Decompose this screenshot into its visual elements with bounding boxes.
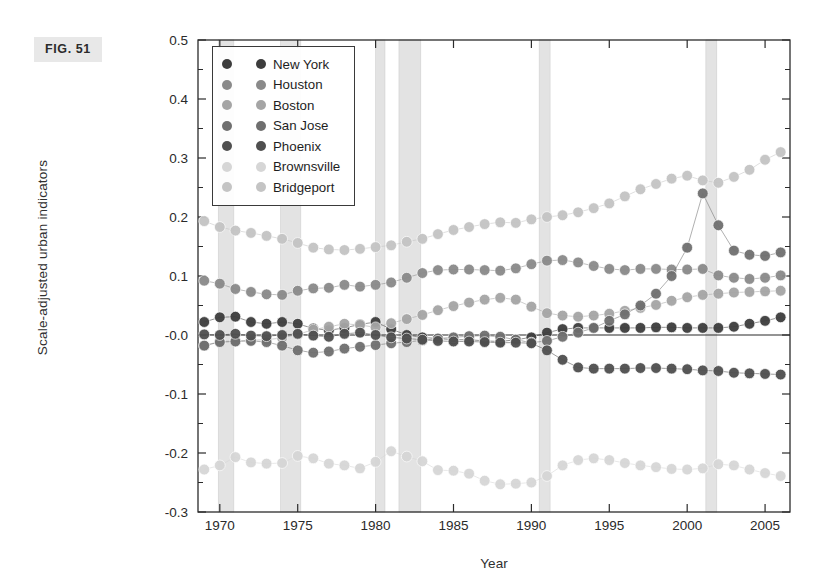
data-point	[651, 363, 662, 374]
data-point	[635, 184, 646, 195]
data-point	[744, 164, 755, 175]
data-point	[401, 314, 412, 325]
data-point	[651, 462, 662, 473]
legend-item-new-york[interactable]: New York	[222, 54, 340, 75]
y-axis-title: Scale-adjusted urban indicators	[35, 98, 50, 418]
data-point	[713, 220, 724, 231]
data-point	[775, 147, 786, 158]
data-point	[760, 315, 771, 326]
data-point	[775, 247, 786, 258]
data-point	[401, 236, 412, 247]
legend-item-bridgeport[interactable]: Bridgeport	[222, 177, 340, 198]
data-point	[729, 321, 740, 332]
data-point	[464, 297, 475, 308]
data-point	[619, 191, 630, 202]
data-point	[214, 460, 225, 471]
data-point	[246, 287, 257, 298]
y-axis-tick-label: -0.1	[142, 387, 188, 402]
legend-item-boston[interactable]: Boston	[222, 95, 340, 116]
data-point	[744, 274, 755, 285]
data-point	[214, 312, 225, 323]
data-point	[542, 255, 553, 266]
x-axis-tick-label: 1970	[190, 518, 250, 533]
x-axis-tick-label: 1995	[579, 518, 639, 533]
data-point	[199, 275, 210, 286]
data-point	[682, 242, 693, 253]
data-point	[464, 222, 475, 233]
legend-item-label: Brownsville	[273, 159, 340, 174]
data-point	[355, 341, 366, 352]
data-point	[573, 257, 584, 268]
data-point	[339, 460, 350, 471]
data-point	[199, 329, 210, 340]
data-point	[495, 217, 506, 228]
y-axis-tick-label: 0.2	[142, 210, 188, 225]
data-point	[573, 207, 584, 218]
data-point	[214, 278, 225, 289]
data-point	[386, 277, 397, 288]
data-point	[261, 230, 272, 241]
legend-marker-icon	[256, 59, 266, 69]
data-point	[619, 323, 630, 334]
data-point	[744, 249, 755, 260]
data-point	[401, 451, 412, 462]
data-point	[666, 295, 677, 306]
data-point	[697, 323, 708, 334]
legend-item-label: Boston	[273, 98, 314, 113]
legend-item-label: Bridgeport	[273, 180, 334, 195]
data-point	[323, 244, 334, 255]
data-point	[510, 337, 521, 348]
data-point	[760, 286, 771, 297]
data-point	[479, 219, 490, 230]
data-point	[401, 272, 412, 283]
x-axis-tick-label: 1985	[423, 518, 483, 533]
data-point	[323, 458, 334, 469]
x-axis-tick-label: 1975	[268, 518, 328, 533]
data-point	[292, 318, 303, 329]
data-point	[682, 170, 693, 181]
legend-item-label: New York	[273, 57, 329, 72]
data-point	[261, 318, 272, 329]
legend-marker-icon	[222, 100, 232, 110]
chart-legend[interactable]: New YorkHoustonBostonSan JosePhoenixBrow…	[212, 46, 355, 206]
data-point	[682, 323, 693, 334]
data-point	[666, 363, 677, 374]
data-point	[604, 363, 615, 374]
data-point	[261, 458, 272, 469]
data-point	[775, 471, 786, 482]
data-point	[355, 281, 366, 292]
data-point	[323, 282, 334, 293]
data-point	[199, 464, 210, 475]
legend-marker-icon	[256, 80, 266, 90]
data-point	[277, 317, 288, 328]
data-point	[277, 340, 288, 351]
data-point	[651, 264, 662, 275]
data-point	[682, 364, 693, 375]
data-point	[417, 233, 428, 244]
legend-item-label: Phoenix	[273, 139, 321, 154]
data-point	[666, 271, 677, 282]
legend-item-brownsville[interactable]: Brownsville	[222, 157, 340, 178]
data-point	[339, 328, 350, 339]
data-point	[261, 331, 272, 342]
legend-item-phoenix[interactable]: Phoenix	[222, 136, 340, 157]
legend-item-houston[interactable]: Houston	[222, 75, 340, 96]
legend-marker-icon	[222, 182, 232, 192]
data-point	[760, 154, 771, 165]
legend-swatch-group	[222, 162, 273, 172]
data-point	[604, 455, 615, 466]
data-point	[760, 369, 771, 380]
data-point	[713, 288, 724, 299]
data-point	[588, 323, 599, 334]
data-point	[651, 288, 662, 299]
data-point	[308, 283, 319, 294]
data-point	[292, 328, 303, 339]
data-point	[479, 337, 490, 348]
data-point	[729, 287, 740, 298]
data-point	[635, 264, 646, 275]
legend-item-san-jose[interactable]: San Jose	[222, 116, 340, 137]
data-point	[744, 318, 755, 329]
data-point	[713, 177, 724, 188]
data-point	[246, 457, 257, 468]
data-point	[666, 464, 677, 475]
